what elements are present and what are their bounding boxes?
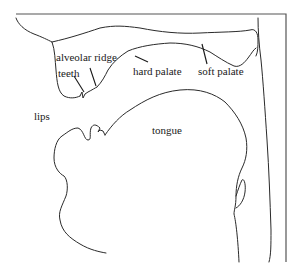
- hard-palate-pointer: [135, 56, 148, 62]
- label-lips: lips: [34, 111, 50, 122]
- diagram-canvas: [0, 0, 299, 268]
- label-teeth: teeth: [58, 68, 79, 79]
- pharynx-back-wall: [258, 18, 271, 262]
- soft-palate-pointer: [202, 44, 207, 64]
- alveolar-ridge-pointer: [90, 68, 96, 86]
- label-soft-palate: soft palate: [198, 66, 244, 77]
- label-alveolar-ridge: alveolar ridge: [56, 52, 117, 63]
- label-hard-palate: hard palate: [133, 66, 182, 77]
- vocal-tract-diagram: alveolar ridge teeth hard palate soft pa…: [0, 0, 299, 268]
- lower-lip-and-jaw-outline: [54, 125, 106, 253]
- tongue-surface: [105, 90, 247, 262]
- label-tongue: tongue: [152, 125, 182, 136]
